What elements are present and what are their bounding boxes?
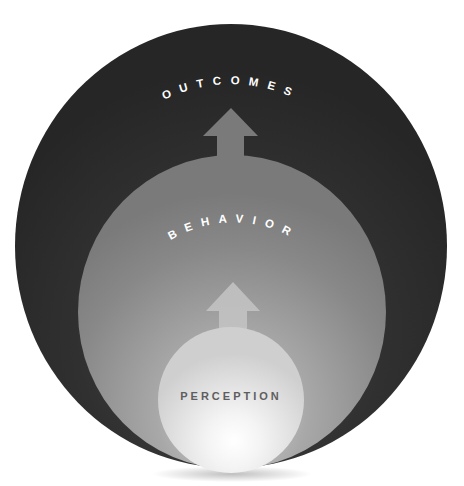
nested-circles-diagram: OUTCOMES BEHAVIOR [0, 0, 464, 486]
perception-label: PERCEPTION [158, 390, 304, 402]
